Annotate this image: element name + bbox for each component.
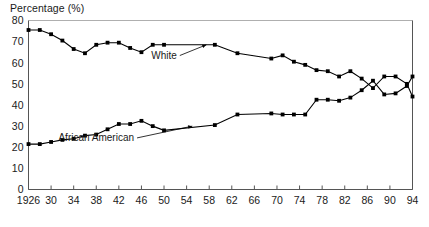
annotation-arrow-line (137, 126, 192, 138)
data-point-marker (315, 68, 319, 72)
data-point-marker (72, 47, 76, 51)
data-point-marker (371, 86, 375, 90)
data-point-marker (151, 124, 155, 128)
chart-figure: Percentage (%) 0102030405060708019263034… (0, 0, 429, 227)
data-point-marker (83, 51, 87, 55)
data-point-marker (38, 142, 42, 146)
data-point-marker (38, 28, 42, 32)
x-tick-label: 54 (181, 194, 193, 206)
data-point-marker (382, 93, 386, 97)
data-point-marker (292, 113, 296, 117)
data-point-marker (162, 43, 166, 47)
data-point-marker (128, 122, 132, 126)
data-point-marker (213, 43, 217, 47)
data-point-marker (411, 95, 415, 99)
data-point-marker (236, 113, 240, 117)
data-point-marker (360, 88, 364, 92)
y-tick-label: 30 (12, 120, 24, 132)
x-tick-label: 94 (407, 194, 419, 206)
series-annotation-label: White (151, 50, 177, 61)
data-point-marker (106, 127, 110, 131)
x-tick-label: 86 (361, 194, 373, 206)
data-point-marker (269, 112, 273, 116)
data-point-marker (236, 51, 240, 55)
x-tick-label: 62 (226, 194, 238, 206)
x-tick-label: 34 (68, 194, 80, 206)
data-point-marker (94, 43, 98, 47)
x-tick-label: 74 (294, 194, 306, 206)
data-point-marker (117, 122, 121, 126)
data-point-marker (140, 119, 144, 123)
x-tick-label: 46 (136, 194, 148, 206)
y-tick-label: 80 (12, 14, 24, 26)
x-tick-label: 82 (339, 194, 351, 206)
x-tick-label: 1926 (17, 194, 41, 206)
series-annotation-label: African American (58, 132, 134, 143)
line-chart-plot: 0102030405060708019263034384246505458626… (0, 0, 429, 227)
data-point-marker (411, 75, 415, 79)
data-point-marker (337, 75, 341, 79)
data-point-marker (360, 77, 364, 81)
data-point-marker (106, 41, 110, 45)
data-point-marker (60, 39, 64, 43)
data-point-marker (292, 60, 296, 64)
y-tick-label: 60 (12, 57, 24, 69)
series-line (29, 30, 413, 97)
data-point-marker (27, 28, 31, 32)
data-point-marker (213, 123, 217, 127)
x-tick-label: 66 (249, 194, 261, 206)
x-tick-label: 42 (113, 194, 125, 206)
data-point-marker (269, 57, 273, 61)
data-point-marker (337, 99, 341, 103)
figure-note (8, 216, 428, 227)
x-tick-label: 78 (316, 194, 328, 206)
data-point-marker (117, 41, 121, 45)
data-point-marker (140, 50, 144, 54)
annotation-arrow-line (180, 45, 207, 56)
data-point-marker (326, 98, 330, 102)
data-point-marker (394, 75, 398, 79)
x-tick-label: 58 (203, 194, 215, 206)
data-point-marker (348, 96, 352, 100)
data-point-marker (281, 53, 285, 57)
data-point-marker (371, 79, 375, 83)
y-tick-label: 20 (12, 141, 24, 153)
data-point-marker (49, 140, 53, 144)
data-point-marker (326, 69, 330, 73)
data-point-marker (382, 75, 386, 79)
data-point-marker (303, 113, 307, 117)
y-tick-label: 40 (12, 99, 24, 111)
x-tick-label: 90 (384, 194, 396, 206)
data-point-marker (49, 32, 53, 36)
data-point-marker (348, 69, 352, 73)
y-tick-label: 10 (12, 162, 24, 174)
data-point-marker (151, 43, 155, 47)
data-point-marker (303, 63, 307, 67)
data-point-marker (394, 91, 398, 95)
x-tick-label: 70 (271, 194, 283, 206)
x-tick-label: 38 (90, 194, 102, 206)
y-tick-label: 70 (12, 35, 24, 47)
x-tick-label: 30 (45, 194, 57, 206)
data-point-marker (128, 46, 132, 50)
y-tick-label: 50 (12, 78, 24, 90)
x-tick-label: 50 (158, 194, 170, 206)
data-point-marker (405, 84, 409, 88)
data-point-marker (315, 98, 319, 102)
data-point-marker (27, 142, 31, 146)
data-point-marker (281, 113, 285, 117)
